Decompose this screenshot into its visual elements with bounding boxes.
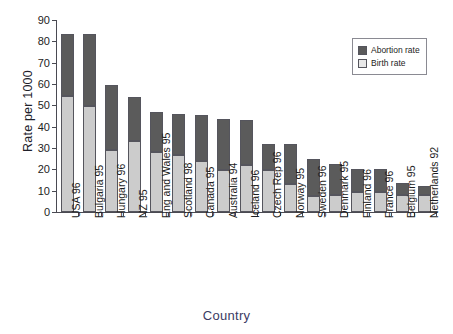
x-axis-line	[56, 212, 436, 213]
x-axis-tick-label: Finland 96	[362, 169, 373, 218]
y-axis-tick-label: 80	[24, 36, 50, 47]
bar-segment-abortion-rate[interactable]	[240, 120, 253, 165]
legend-swatch-icon-abortion	[358, 46, 367, 55]
x-axis-tick-label: Eng and Wales 95	[161, 133, 172, 218]
x-axis-tick-label: Hungary 96	[116, 164, 127, 218]
legend-label-birth: Birth rate	[371, 58, 406, 68]
x-axis-tick-label: Iceland 96	[250, 170, 261, 218]
x-axis-title: Country	[0, 308, 453, 323]
legend-label-abortion: Abortion rate	[371, 45, 420, 55]
x-axis-tick-label: NZ 95	[138, 189, 149, 218]
chart-legend: Abortion rate Birth rate	[352, 38, 427, 75]
bar-segment-abortion-rate[interactable]	[61, 34, 74, 96]
x-axis-tick-label: Belgium 95	[406, 165, 417, 218]
x-axis-tick-label: Australia 94	[228, 163, 239, 218]
bar-segment-abortion-rate[interactable]	[128, 97, 141, 141]
x-axis-tick-label: France 96	[384, 171, 395, 218]
x-axis-tick-label: Czech Rep 96	[272, 151, 283, 218]
x-axis-tick-label: Canada 95	[205, 167, 216, 218]
bar-segment-abortion-rate[interactable]	[83, 34, 96, 107]
y-axis-tick-label: 10	[24, 185, 50, 196]
stacked-bar-chart: Rate per 1000 0102030405060708090 USA 96…	[0, 0, 453, 334]
y-axis-tick-label: 50	[24, 100, 50, 111]
y-axis-tick-label: 30	[24, 143, 50, 154]
x-axis-tick-label: Norway 95	[295, 168, 306, 218]
x-axis-tick-label: Sweden 96	[317, 165, 328, 218]
x-axis-tick-label: Denmark 95	[339, 161, 350, 218]
x-axis-tick-label: USA 96	[71, 182, 82, 218]
x-axis-tick-label: Netherlands 92	[429, 147, 440, 218]
y-axis-tick-mark	[52, 212, 56, 213]
bar-segment-abortion-rate[interactable]	[195, 115, 208, 161]
x-axis-tick-label: Scotland 98	[183, 163, 194, 218]
bar-segment-abortion-rate[interactable]	[172, 114, 185, 156]
legend-item-birth-rate: Birth rate	[358, 57, 420, 69]
y-axis-tick-label: 20	[24, 164, 50, 175]
y-axis-tick-label: 0	[24, 207, 50, 218]
y-axis-tick-label: 60	[24, 79, 50, 90]
legend-swatch-icon-birth	[358, 59, 367, 68]
y-axis-tick-label: 70	[24, 57, 50, 68]
bar-segment-abortion-rate[interactable]	[105, 85, 118, 150]
legend-item-abortion-rate: Abortion rate	[358, 44, 420, 56]
y-axis-tick-label: 40	[24, 121, 50, 132]
x-axis-tick-label: Bulgaria 95	[94, 165, 105, 218]
y-axis-tick-label: 90	[24, 15, 50, 26]
